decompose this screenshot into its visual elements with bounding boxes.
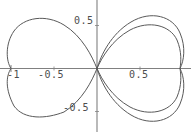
x-tick-label-neg1: -1 xyxy=(7,70,20,80)
x-tick-label-neg0-5: -0.5 xyxy=(38,70,64,80)
x-tick-label-pos0-5: 0.5 xyxy=(129,70,149,80)
y-tick-label-pos0-5: 0.5 xyxy=(74,16,94,26)
polar-plot-figure: -1 -0.5 0.5 0.5 -0.5 xyxy=(0,0,191,132)
plot-canvas xyxy=(0,0,191,132)
y-tick-label-neg0-5: -0.5 xyxy=(63,103,89,113)
